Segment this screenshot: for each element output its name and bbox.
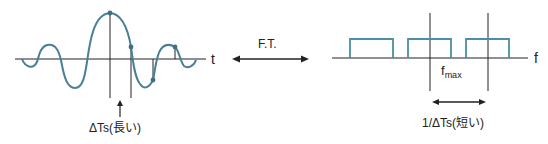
sample-point	[151, 78, 156, 83]
ft-arrow-left-head	[232, 56, 240, 63]
left-caption: ΔTs(長い)	[89, 122, 141, 134]
fmax-label-sub: max	[445, 70, 462, 80]
time-axis-label: t	[211, 52, 215, 66]
sample-point	[129, 45, 134, 50]
period-arrow-left-head	[432, 99, 439, 105]
period-arrow-right-head	[479, 99, 486, 105]
right-caption: 1/ΔTs(短い)	[422, 117, 484, 129]
sample-point	[173, 45, 178, 50]
sample-point	[108, 11, 113, 16]
fmax-label: fmax	[441, 64, 462, 77]
spectrum-rect-1	[350, 39, 393, 58]
delta-ts-arrow-head	[117, 100, 123, 106]
frequency-axis-label: f	[534, 51, 538, 65]
ft-arrow-right-head	[301, 56, 309, 63]
ft-label: F.T.	[258, 38, 277, 50]
sinc-signal-curve	[22, 13, 196, 88]
